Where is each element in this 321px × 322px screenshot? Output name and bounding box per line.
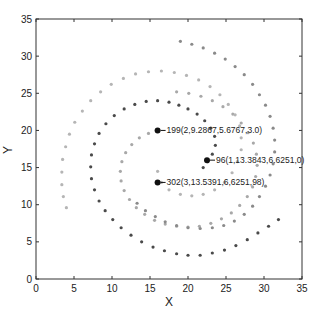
data-point xyxy=(258,93,261,96)
data-point xyxy=(120,179,123,182)
data-point xyxy=(246,238,249,241)
highlight-marker xyxy=(155,179,161,185)
data-point xyxy=(202,166,205,169)
data-point xyxy=(122,77,125,80)
x-tick-label: 5 xyxy=(71,283,77,294)
x-tick-label: 30 xyxy=(258,283,270,294)
x-tick-label: 15 xyxy=(144,283,156,294)
data-point xyxy=(129,234,132,237)
y-axis-title: Y xyxy=(1,146,15,154)
data-point xyxy=(123,189,126,192)
annotation-label: 302(3,13.5391,6,6251,98) xyxy=(167,177,265,187)
data-point xyxy=(264,104,267,107)
data-point xyxy=(104,122,107,125)
data-point xyxy=(209,222,212,225)
x-tick-label: 20 xyxy=(182,283,194,294)
y-tick-label: 25 xyxy=(21,88,33,99)
spiral-scatter-chart: 96(1,13.3843,6.6251,0)199(2,9.2867,5.676… xyxy=(0,0,321,322)
data-point xyxy=(252,141,255,144)
data-point xyxy=(144,209,147,212)
annotated-point: 199(2,9.2867,5.6767,3.0) xyxy=(155,125,263,135)
data-point xyxy=(199,227,202,230)
data-point xyxy=(211,226,214,229)
data-point xyxy=(62,195,65,198)
data-point xyxy=(90,177,93,180)
data-point xyxy=(138,136,141,139)
data-point xyxy=(110,83,113,86)
y-tick-label: 20 xyxy=(21,125,33,136)
data-point xyxy=(151,245,154,248)
data-point xyxy=(190,43,193,46)
data-point xyxy=(211,251,214,254)
data-point xyxy=(251,205,254,208)
data-point xyxy=(185,74,188,77)
data-point xyxy=(147,70,150,73)
highlight-marker xyxy=(155,127,161,133)
y-tick-label: 30 xyxy=(21,51,33,62)
data-point xyxy=(208,85,211,88)
data-point xyxy=(211,99,214,102)
data-point xyxy=(234,113,237,116)
data-point xyxy=(227,103,230,106)
data-point xyxy=(179,193,182,196)
data-point xyxy=(238,204,241,207)
data-point xyxy=(135,206,138,209)
data-point xyxy=(113,114,116,117)
data-point xyxy=(143,213,146,216)
annotation-label: 199(2,9.2867,5.6767,3.0) xyxy=(167,125,263,135)
data-point xyxy=(175,224,178,227)
data-point xyxy=(123,107,126,110)
annotated-point: 96(1,13.3843,6.6251,0) xyxy=(204,155,305,165)
y-tick-label: 35 xyxy=(21,14,33,25)
x-tick-label: 0 xyxy=(33,283,39,294)
data-point xyxy=(277,218,280,221)
data-point xyxy=(246,195,249,198)
data-point xyxy=(60,170,63,173)
data-point xyxy=(273,150,276,153)
data-point xyxy=(268,173,271,176)
data-point xyxy=(196,112,199,115)
data-point xyxy=(223,248,226,251)
data-point xyxy=(202,46,205,49)
data-point xyxy=(211,153,214,156)
data-point xyxy=(167,101,170,104)
data-point xyxy=(202,193,205,196)
data-point xyxy=(214,144,217,147)
data-point xyxy=(258,195,261,198)
data-point xyxy=(243,213,246,216)
data-point xyxy=(124,151,127,154)
data-point xyxy=(147,132,150,135)
data-point xyxy=(119,170,122,173)
data-point xyxy=(272,127,275,130)
data-point xyxy=(134,72,137,75)
data-point xyxy=(163,249,166,252)
data-point xyxy=(177,104,180,107)
data-point xyxy=(89,165,92,168)
data-point xyxy=(175,90,178,93)
data-point xyxy=(230,211,233,214)
data-point xyxy=(153,219,156,222)
data-point xyxy=(190,194,193,197)
data-point xyxy=(213,188,216,191)
data-point xyxy=(99,90,102,93)
data-point xyxy=(173,71,176,74)
data-point xyxy=(90,153,93,156)
data-point xyxy=(234,244,237,247)
data-point xyxy=(267,225,270,228)
y-tick-label: 0 xyxy=(26,274,32,285)
data-point xyxy=(186,254,189,257)
x-axis-title: X xyxy=(165,295,173,309)
data-point xyxy=(130,143,133,146)
data-point xyxy=(243,73,246,76)
data-point xyxy=(156,170,159,173)
data-point xyxy=(224,58,227,61)
data-point xyxy=(199,95,202,98)
data-point xyxy=(240,121,243,124)
data-point xyxy=(164,220,167,223)
data-point xyxy=(68,133,71,136)
data-point xyxy=(104,209,107,212)
y-tick-label: 10 xyxy=(21,199,33,210)
data-point xyxy=(111,218,114,221)
data-point xyxy=(93,142,96,145)
data-point xyxy=(187,92,190,95)
